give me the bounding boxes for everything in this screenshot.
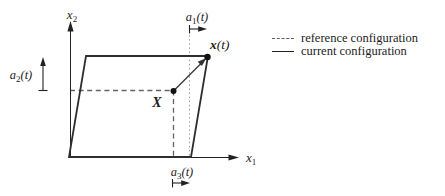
x1-axis-arrowhead-icon [229,154,240,160]
material-point-label: X [151,95,162,110]
spatial-point-dot [204,54,210,60]
solid-line-sample-icon [272,51,294,52]
deformation-diagram: x2 x1 a1(t) a2(t) a3(t) X x(t) reference… [0,0,445,196]
x2-axis-label: x2 [66,7,77,24]
legend: reference configuration current configur… [272,32,418,58]
a2-label: a2(t) [10,68,33,84]
motion-vector-line [174,63,202,91]
diagram-canvas: x2 x1 a1(t) a2(t) a3(t) X x(t) [0,0,445,196]
a3-measure-arrowhead-icon [181,180,190,186]
current-config-outline [69,56,208,157]
dashed-line-sample-icon [272,38,294,39]
legend-item-current: current configuration [272,45,418,58]
a1-label: a1(t) [186,10,209,26]
a3-label: a3(t) [171,165,194,181]
spatial-point-label: x(t) [209,37,230,52]
material-point-dot [171,88,177,94]
a2-measure-arrowhead-icon [40,57,46,66]
a1-measure-arrowhead-icon [198,26,207,32]
x1-axis-label: x1 [245,150,256,167]
legend-label-current: current configuration [301,45,407,58]
